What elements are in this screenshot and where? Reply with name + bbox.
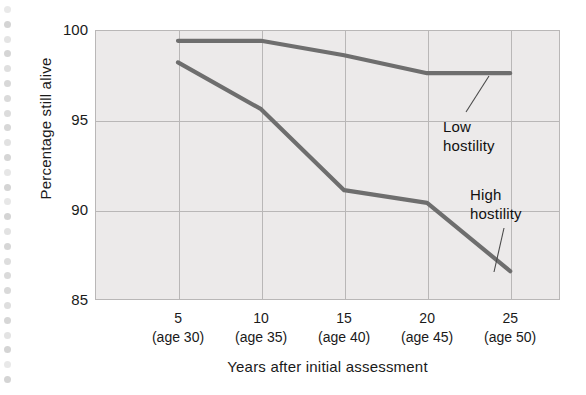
y-tick-label: 100 (44, 21, 88, 38)
x-tick-label: 25(age 50) (465, 309, 555, 347)
y-tick-label: 85 (44, 291, 88, 308)
series-annotation-high-hostility-line1: High (470, 186, 502, 203)
x-tick-label: 20(age 45) (382, 309, 472, 347)
scan-dot (4, 302, 11, 309)
scan-dot (4, 80, 11, 87)
scan-dot (4, 213, 11, 220)
series-annotation-low-hostility-line1: Low (443, 118, 471, 135)
gridline-vertical (511, 31, 512, 299)
scan-dot (4, 21, 11, 28)
x-tick-label-age: (age 45) (382, 328, 472, 347)
scan-dot (4, 376, 11, 383)
x-tick-label-year: 20 (382, 309, 472, 328)
series-annotation-high-hostility-line2: hostility (470, 205, 522, 222)
x-tick-label-age: (age 50) (465, 328, 555, 347)
gridline-vertical (262, 31, 263, 299)
x-tick-label-age: (age 35) (216, 328, 306, 347)
gridline-vertical (345, 31, 346, 299)
x-tick-label-age: (age 40) (299, 328, 389, 347)
series-annotation-low-hostility-line2: hostility (443, 137, 495, 154)
gridline-vertical (179, 31, 180, 299)
x-tick-label-year: 5 (133, 309, 223, 328)
x-tick-label-age: (age 30) (133, 328, 223, 347)
y-tick-label: 90 (44, 201, 88, 218)
chart-figure: Percentage still alive 100959085 5(age 3… (0, 0, 586, 395)
scan-dot (4, 332, 11, 339)
scan-dot (4, 65, 11, 72)
scan-dot (4, 184, 11, 191)
scan-dot (4, 346, 11, 353)
series-annotation-low-hostility: Low hostility (443, 117, 495, 155)
scan-dot (4, 361, 11, 368)
scan-dot (4, 154, 11, 161)
x-tick-label-year: 10 (216, 309, 306, 328)
scan-dot (4, 198, 11, 205)
scan-dot (4, 36, 11, 43)
y-tick-label: 95 (44, 111, 88, 128)
series-annotation-high-hostility: High hostility (470, 185, 522, 223)
scan-dot (4, 287, 11, 294)
scan-dot (4, 110, 11, 117)
gridline-vertical (428, 31, 429, 299)
x-tick-label-year: 25 (465, 309, 555, 328)
x-axis-title: Years after initial assessment (95, 358, 560, 375)
scan-dot (4, 169, 11, 176)
scan-dot (4, 228, 11, 235)
scan-dot (4, 272, 11, 279)
x-tick-label-year: 15 (299, 309, 389, 328)
scan-dot (4, 6, 11, 13)
plot-area (95, 30, 560, 300)
x-tick-label: 10(age 35) (216, 309, 306, 347)
scan-dot (4, 95, 11, 102)
x-axis-tick-labels: 5(age 30)10(age 35)15(age 40)20(age 45)2… (95, 305, 560, 355)
scan-dot (4, 258, 11, 265)
scan-dot (4, 243, 11, 250)
scan-dot (4, 50, 11, 57)
scan-dot (4, 139, 11, 146)
x-tick-label: 5(age 30) (133, 309, 223, 347)
x-tick-label: 15(age 40) (299, 309, 389, 347)
scan-edge-dots-decoration (2, 0, 20, 395)
y-axis-tick-labels: 100959085 (38, 30, 88, 300)
scan-dot (4, 317, 11, 324)
scan-dot (4, 124, 11, 131)
